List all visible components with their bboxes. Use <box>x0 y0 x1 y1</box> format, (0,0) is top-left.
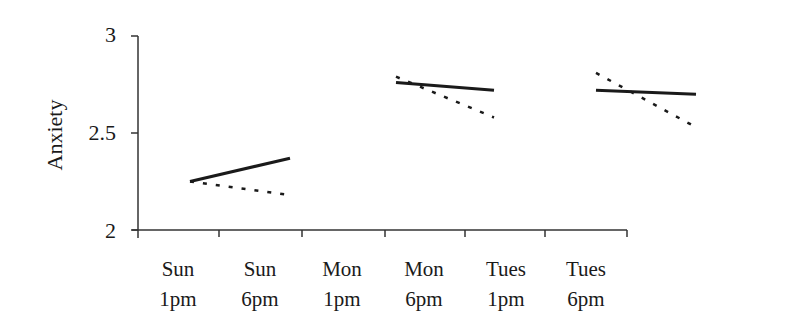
x-tick-label: 6pm <box>567 287 604 311</box>
x-tick-label: Mon <box>322 257 362 281</box>
x-axis <box>132 230 627 237</box>
anxiety-line-chart: 3 2.5 2 Anxiety Sun 1pm Sun 6pm Mon 1pm … <box>0 0 786 332</box>
series-lines <box>190 73 696 195</box>
x-tick-label: 1pm <box>323 287 360 311</box>
x-tick-label: Mon <box>404 257 444 281</box>
x-tick-label: 6pm <box>405 287 442 311</box>
x-tick-label: 6pm <box>241 287 278 311</box>
x-category-labels: Sun 1pm Sun 6pm Mon 1pm Mon 6pm Tues 1pm… <box>159 257 606 311</box>
x-tick-label: Sun <box>244 257 277 281</box>
x-tick-label: 1pm <box>487 287 524 311</box>
dotted-series-segment <box>396 77 494 118</box>
x-tick-label: Tues <box>486 257 526 281</box>
x-tick-label: 1pm <box>159 287 196 311</box>
y-axis-label: Anxiety <box>42 100 67 171</box>
dotted-series-segment <box>596 73 696 127</box>
x-tick-label: Sun <box>162 257 195 281</box>
y-tick-label: 3 <box>105 22 116 47</box>
solid-series-segment <box>596 90 696 94</box>
y-tick-label: 2 <box>105 218 116 243</box>
solid-series-segment <box>190 158 290 181</box>
y-tick-label: 2.5 <box>89 120 117 145</box>
x-tick-label: Tues <box>566 257 606 281</box>
dotted-series-segment <box>190 182 290 196</box>
y-axis: 3 2.5 2 Anxiety <box>42 22 138 243</box>
